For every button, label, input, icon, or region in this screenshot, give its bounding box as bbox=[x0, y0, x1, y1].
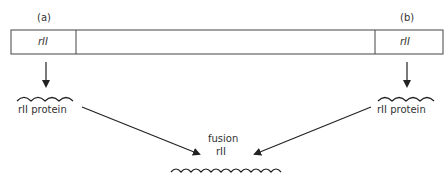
left-diagonal-arrow bbox=[82, 107, 199, 154]
fusion-label-line1: fusion bbox=[208, 133, 238, 144]
left-rii-segment-label: rII bbox=[38, 36, 48, 47]
left-protein-wave bbox=[17, 98, 73, 102]
right-protein-wave bbox=[378, 98, 434, 102]
label-a: (a) bbox=[37, 12, 51, 23]
fusion-protein-wave bbox=[171, 169, 281, 172]
left-protein-label: rII protein bbox=[18, 104, 67, 115]
right-rii-segment-label: rII bbox=[400, 36, 410, 47]
right-diagonal-arrow bbox=[255, 107, 371, 154]
label-b: (b) bbox=[400, 12, 414, 23]
fusion-label-line2: rII bbox=[216, 146, 226, 157]
right-protein-label: rII protein bbox=[377, 104, 426, 115]
